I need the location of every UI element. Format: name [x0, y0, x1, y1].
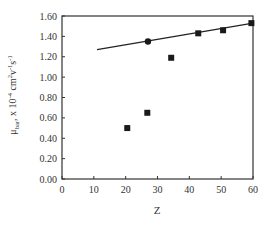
square-marker [248, 20, 254, 26]
data-series [97, 20, 254, 131]
square-marker [220, 27, 226, 33]
y-tick-label: 1.20 [40, 51, 58, 62]
y-tick-label: 1.60 [40, 11, 58, 22]
y-tick-label: 0.80 [40, 92, 58, 103]
square-marker [144, 110, 150, 116]
x-tick-label: 50 [216, 184, 226, 195]
x-axis-title: Z [154, 204, 161, 216]
chart-plot: 0102030405060 0.000.200.400.600.801.001.… [0, 0, 272, 225]
square-marker [168, 55, 174, 61]
y-axis-title: μbar, x 10-4 cm2v-1s-1 [6, 20, 20, 170]
square-marker [195, 30, 201, 36]
x-tick-label: 30 [153, 184, 163, 195]
y-axis-ticks: 0.000.200.400.600.801.001.201.401.60 [40, 11, 66, 185]
plot-frame [62, 16, 253, 179]
y-tick-label: 1.00 [40, 72, 58, 83]
y-tick-label: 0.00 [40, 174, 58, 185]
x-tick-label: 20 [121, 184, 131, 195]
x-tick-label: 10 [89, 184, 99, 195]
fit-line [97, 23, 253, 49]
y-tick-label: 0.60 [40, 112, 58, 123]
x-tick-label: 40 [184, 184, 194, 195]
y-tick-label: 0.40 [40, 133, 58, 144]
y-tick-label: 0.20 [40, 153, 58, 164]
x-tick-label: 60 [248, 184, 258, 195]
y-tick-label: 1.40 [40, 31, 58, 42]
x-tick-label: 0 [60, 184, 65, 195]
circle-marker [145, 38, 151, 44]
square-marker [124, 125, 130, 131]
